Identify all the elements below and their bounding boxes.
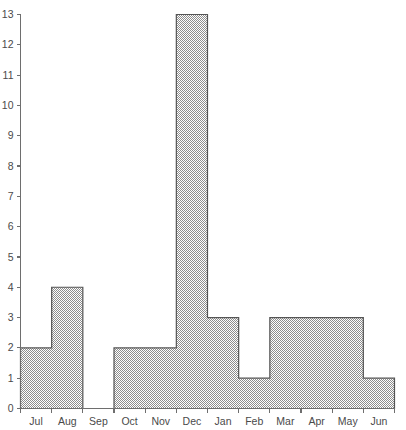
chart-canvas: 012345678910111213 JulAugSepOctNovDecJan… [0, 0, 406, 430]
y-axis-tick-labels: 012345678910111213 [2, 8, 14, 414]
histogram-bar-group [114, 15, 395, 409]
y-tick-label: 12 [2, 38, 14, 50]
y-tick-label: 7 [8, 190, 14, 202]
histogram-chart: 012345678910111213 JulAugSepOctNovDecJan… [0, 0, 406, 430]
x-tick-label: Nov [151, 415, 170, 427]
x-tick-label: May [338, 415, 359, 427]
y-tick-label: 2 [8, 341, 14, 353]
x-tick-label: Mar [276, 415, 295, 427]
y-tick-label: 13 [2, 8, 14, 20]
x-axis-ticks [21, 409, 395, 414]
x-tick-label: Jan [215, 415, 232, 427]
x-tick-label: Oct [121, 415, 137, 427]
y-tick-label: 1 [8, 372, 14, 384]
x-tick-label: Jun [370, 415, 387, 427]
y-tick-label: 9 [8, 129, 14, 141]
y-tick-label: 10 [2, 99, 14, 111]
x-tick-label: Aug [58, 415, 77, 427]
y-tick-label: 6 [8, 220, 14, 232]
histogram-bar-group [21, 287, 83, 408]
x-tick-label: Feb [245, 415, 263, 427]
y-tick-label: 3 [8, 311, 14, 323]
x-tick-label: Jul [29, 415, 42, 427]
x-tick-label: Dec [183, 415, 202, 427]
y-tick-label: 5 [8, 251, 14, 263]
y-tick-label: 8 [8, 160, 14, 172]
x-axis-tick-labels: JulAugSepOctNovDecJanFebMarAprMayJun [29, 415, 387, 427]
x-tick-label: Sep [89, 415, 108, 427]
y-tick-label: 0 [8, 402, 14, 414]
y-tick-label: 11 [3, 69, 14, 81]
x-tick-label: Apr [308, 415, 325, 427]
y-tick-label: 4 [8, 281, 14, 293]
histogram-series [21, 15, 395, 409]
